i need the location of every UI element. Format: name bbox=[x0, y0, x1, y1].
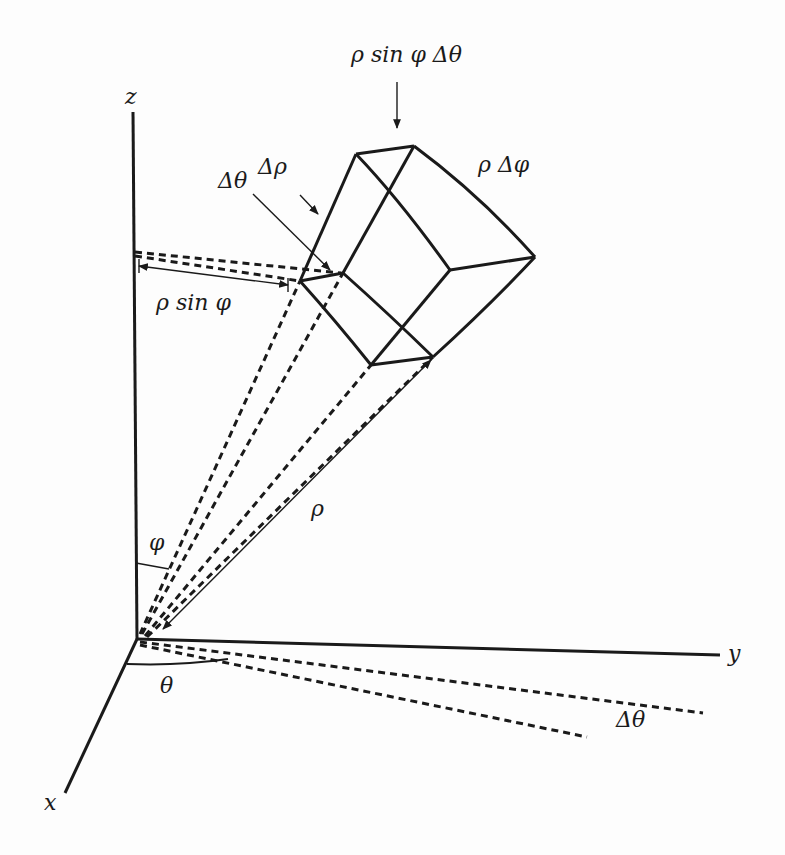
spherical-volume-element-diagram: ρ sin φ Δθ ρ Δφ Δρ Δθ ρ sin φ ρ φ θ Δθ z… bbox=[0, 0, 785, 855]
rho-arrow bbox=[163, 360, 431, 629]
radial-dashed-lines bbox=[140, 273, 433, 637]
label-delta-theta-base: Δθ bbox=[615, 707, 645, 732]
label-y-axis: y bbox=[727, 641, 741, 666]
label-phi: φ bbox=[149, 530, 165, 555]
x-axis bbox=[65, 639, 137, 793]
delta-rho-arrow bbox=[300, 195, 318, 214]
label-x-axis: x bbox=[44, 790, 57, 815]
phi-angle-marker bbox=[136, 563, 169, 569]
volume-element-box bbox=[300, 146, 535, 365]
label-rho-sin-phi-delta-theta: ρ sin φ Δθ bbox=[350, 42, 462, 67]
label-delta-rho: Δρ bbox=[257, 154, 287, 179]
label-rho-sin-phi: ρ sin φ bbox=[155, 290, 231, 315]
diagram-canvas: ρ sin φ Δθ ρ Δφ Δρ Δθ ρ sin φ ρ φ θ Δθ z… bbox=[0, 0, 785, 855]
label-rho: ρ bbox=[310, 496, 324, 521]
delta-theta-arrow bbox=[253, 194, 330, 270]
label-delta-theta-box: Δθ bbox=[217, 168, 247, 193]
label-z-axis: z bbox=[124, 84, 137, 109]
label-theta: θ bbox=[160, 673, 173, 698]
z-axis bbox=[133, 112, 137, 639]
label-rho-delta-phi: ρ Δφ bbox=[477, 152, 530, 177]
